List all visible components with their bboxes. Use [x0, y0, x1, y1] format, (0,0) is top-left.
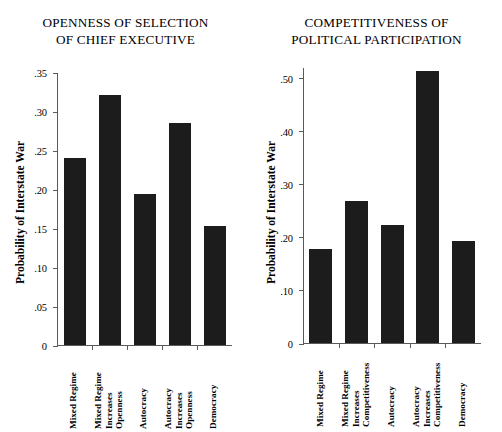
x-axis-category-label: Mixed RegimeIncreasesCompetitiveness	[340, 363, 372, 427]
plot-area-openness: 0.05.10.15.20.25.30.35Mixed RegimeMixed …	[57, 73, 232, 346]
y-axis-tick: .10	[299, 290, 304, 291]
x-axis-tick	[92, 345, 93, 350]
y-axis-tick: .20	[53, 190, 58, 191]
x-axis-category-line: Autocracy	[411, 363, 422, 427]
y-axis-line	[303, 68, 304, 344]
chart-title-line-2: OF CHIEF EXECUTIVE	[0, 31, 251, 48]
bar	[169, 123, 191, 345]
x-axis-category-line: Mixed Regime	[340, 363, 351, 427]
x-axis-tick	[339, 343, 340, 348]
y-axis-tick-label: .05	[34, 302, 47, 313]
chart-title-line-1: OPENNESS OF SELECTION	[0, 14, 251, 31]
chart-title-line-2: POLITICAL PARTICIPATION	[251, 31, 502, 48]
y-axis-tick-label: .15	[34, 224, 47, 235]
chart-panel-competitiveness: COMPETITIVENESS OF POLITICAL PARTICIPATI…	[251, 0, 502, 432]
y-axis-tick-label: 0	[42, 341, 47, 352]
x-axis-category-line: Mixed Regime	[93, 372, 104, 429]
x-axis-category-label: AutocracyIncreasesOpenness	[163, 388, 195, 429]
x-axis-category-line: Autocracy	[138, 388, 149, 429]
y-axis-tick: .40	[299, 131, 304, 132]
y-axis-tick-label: .30	[280, 179, 293, 190]
x-axis-tick	[410, 343, 411, 348]
y-axis-tick: 0	[299, 344, 304, 345]
x-axis-category-line: Openness	[114, 372, 125, 429]
y-axis-tick: .20	[299, 237, 304, 238]
y-axis-tick: .15	[53, 229, 58, 230]
plot-area-competitiveness: 0.10.20.30.40.50Mixed RegimeMixed Regime…	[303, 68, 481, 344]
x-axis-category-line: Competitiveness	[361, 363, 372, 427]
bar	[345, 201, 368, 343]
y-axis-tick: 0	[53, 346, 58, 347]
y-axis-tick-label: .20	[280, 232, 293, 243]
x-axis-category-label: Democracy	[208, 385, 219, 429]
y-axis-tick-label: .30	[34, 107, 47, 118]
x-axis-tick	[374, 343, 375, 348]
x-axis-line	[303, 343, 481, 344]
y-axis-tick-label: .20	[34, 185, 47, 196]
y-axis-label-openness: Probability of Interstate War	[14, 141, 26, 284]
x-axis-category-label: Mixed Regime	[315, 370, 326, 427]
y-axis-tick-label: .40	[280, 126, 293, 137]
x-axis-tick	[127, 345, 128, 350]
x-axis-category-line: Autocracy	[386, 386, 397, 427]
chart-title-openness: OPENNESS OF SELECTION OF CHIEF EXECUTIVE	[0, 14, 251, 48]
y-axis-tick-label: 0	[288, 339, 293, 350]
y-axis-tick-label: .25	[34, 146, 47, 157]
y-axis-tick: .30	[299, 184, 304, 185]
x-axis-category-line: Openness	[184, 388, 195, 429]
bar	[452, 241, 475, 343]
y-axis-tick: .05	[53, 307, 58, 308]
y-axis-line	[57, 73, 58, 346]
y-axis-tick-label: .10	[34, 263, 47, 274]
y-axis-label-competitiveness: Probability of Interstate War	[265, 141, 277, 284]
x-axis-category-label: Mixed Regime	[68, 372, 79, 429]
x-axis-category-line: Competitiveness	[432, 363, 443, 427]
x-axis-tick	[445, 343, 446, 348]
bar	[134, 194, 156, 345]
x-axis-category-line: Mixed Regime	[68, 372, 79, 429]
bar	[309, 249, 332, 343]
bar	[204, 226, 226, 345]
x-axis-category-line: Increases	[103, 372, 114, 429]
y-axis-tick: .10	[53, 268, 58, 269]
x-axis-tick	[197, 345, 198, 350]
x-axis-category-line: Mixed Regime	[315, 370, 326, 427]
x-axis-category-label: Autocracy	[138, 388, 149, 429]
x-axis-tick	[162, 345, 163, 350]
x-axis-category-line: Autocracy	[163, 388, 174, 429]
bar	[99, 95, 121, 345]
x-axis-category-label: Autocracy	[386, 386, 397, 427]
x-axis-category-line: Increases	[173, 388, 184, 429]
chart-title-competitiveness: COMPETITIVENESS OF POLITICAL PARTICIPATI…	[251, 14, 502, 48]
x-axis-category-label: Mixed RegimeIncreasesOpenness	[93, 372, 125, 429]
bar	[381, 225, 404, 343]
x-axis-category-line: Democracy	[457, 383, 468, 427]
bar	[416, 71, 439, 343]
x-axis-category-line: Increases	[350, 363, 361, 427]
figure-two-bar-charts: OPENNESS OF SELECTION OF CHIEF EXECUTIVE…	[0, 0, 502, 432]
y-axis-tick-label: .50	[280, 73, 293, 84]
y-axis-tick: .35	[53, 73, 58, 74]
chart-title-line-1: COMPETITIVENESS OF	[251, 14, 502, 31]
x-axis-category-line: Democracy	[208, 385, 219, 429]
y-axis-tick-label: .10	[280, 285, 293, 296]
x-axis-line	[57, 345, 232, 346]
bar	[64, 158, 86, 345]
x-axis-category-line: Increases	[421, 363, 432, 427]
y-axis-tick-label: .35	[34, 68, 47, 79]
x-axis-category-label: AutocracyIncreasesCompetitiveness	[411, 363, 443, 427]
y-axis-tick: .30	[53, 112, 58, 113]
chart-panel-openness: OPENNESS OF SELECTION OF CHIEF EXECUTIVE…	[0, 0, 251, 432]
x-axis-category-label: Democracy	[457, 383, 468, 427]
y-axis-tick: .25	[53, 151, 58, 152]
y-axis-tick: .50	[299, 78, 304, 79]
